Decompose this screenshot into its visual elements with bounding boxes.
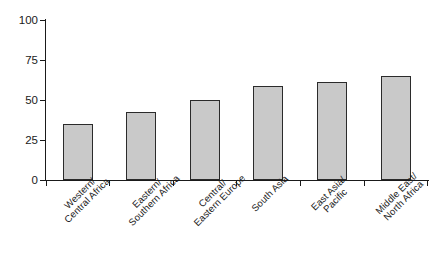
bar-south-asia xyxy=(253,86,283,180)
bar-central-eastern-europe xyxy=(190,100,220,180)
bar-east-asia-pacific xyxy=(317,82,347,180)
y-axis-tick-label-100: 100 xyxy=(0,15,38,26)
bar-eastern-southern-africa xyxy=(126,112,156,180)
x-axis-tick-4 xyxy=(300,181,301,186)
x-axis-tick-5 xyxy=(364,181,365,186)
bar-chart: 100 75 50 25 0 Western/ Central Africa E… xyxy=(0,0,442,259)
y-axis-tick-label-25: 25 xyxy=(0,135,38,146)
bar-western-central-africa xyxy=(63,124,93,180)
x-axis-tick-0 xyxy=(46,181,47,186)
plot-area xyxy=(46,20,428,180)
bar-middle-east-north-africa xyxy=(381,76,411,180)
y-axis-tick-label-50: 50 xyxy=(0,95,38,106)
y-axis-tick-label-0: 0 xyxy=(0,175,38,186)
x-axis-label-east-asia-pacific: East Asia/ Pacific xyxy=(309,175,355,221)
y-axis-tick-label-75: 75 xyxy=(0,55,38,66)
